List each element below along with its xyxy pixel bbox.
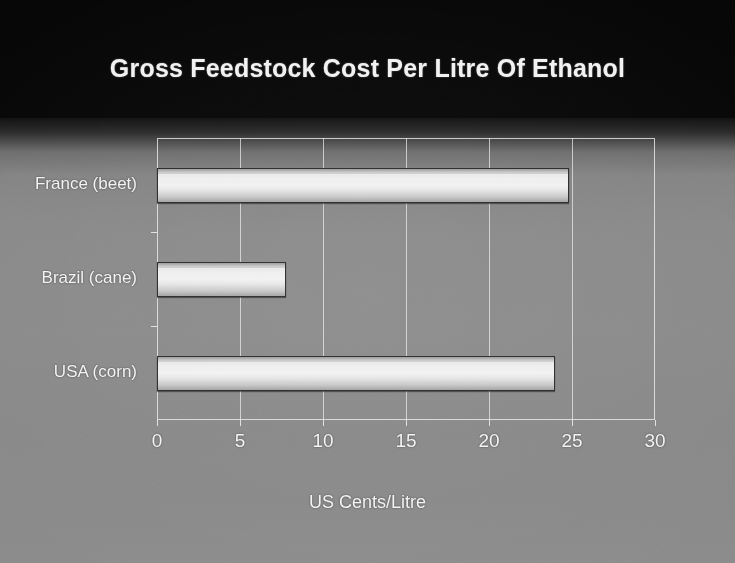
x-axis-tick-label: 5: [235, 430, 246, 452]
chart-figure: Gross Feedstock Cost Per Litre Of Ethano…: [0, 0, 735, 563]
y-axis-category-label: France (beet): [35, 174, 137, 194]
x-axis-tick: [655, 420, 656, 426]
x-axis-tick: [240, 420, 241, 426]
x-axis-tick-label: 15: [395, 430, 416, 452]
x-axis-tick: [323, 420, 324, 426]
x-axis-tick-label: 10: [312, 430, 333, 452]
x-axis-tick-label: 30: [644, 430, 665, 452]
y-axis-category-label: Brazil (cane): [42, 268, 137, 288]
bar-highlight: [158, 362, 554, 371]
y-axis-category-labels: USA (corn)Brazil (cane)France (beet): [0, 138, 149, 420]
x-axis-tick: [406, 420, 407, 426]
y-axis-category-label: USA (corn): [54, 362, 137, 382]
bar: [157, 168, 569, 203]
chart-title: Gross Feedstock Cost Per Litre Of Ethano…: [0, 54, 735, 83]
bar-highlight: [158, 268, 285, 277]
gridline: [572, 138, 573, 420]
y-axis-tick: [151, 326, 157, 327]
bar: [157, 356, 555, 391]
x-axis-tick: [489, 420, 490, 426]
x-axis-tick: [572, 420, 573, 426]
x-axis-title: US Cents/Litre: [0, 492, 735, 513]
y-axis-tick: [151, 232, 157, 233]
x-axis-tick: [157, 420, 158, 426]
x-axis-tick-label: 25: [561, 430, 582, 452]
bar-highlight: [158, 174, 568, 183]
x-axis-tick-label: 20: [478, 430, 499, 452]
x-axis-tick-label: 0: [152, 430, 163, 452]
plot-area: [157, 138, 655, 420]
bar: [157, 262, 286, 297]
